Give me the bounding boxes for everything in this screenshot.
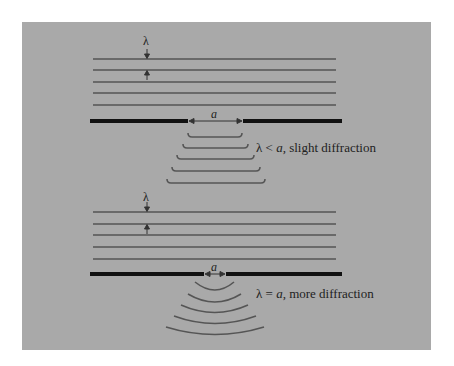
incident-wavefronts-top: [93, 59, 336, 105]
caption-top-prefix: λ <: [256, 140, 276, 155]
caption-bottom-prefix: λ =: [256, 286, 276, 301]
wavelength-label-bottom: λ: [143, 191, 149, 203]
caption-top-suffix: , slight diffraction: [283, 140, 376, 155]
wavelength-arrows-bottom: [145, 202, 150, 234]
wavelength-arrows-top: [145, 49, 150, 80]
aperture-label-bottom: a: [211, 261, 217, 273]
diffracted-wavefronts-top: [167, 133, 265, 183]
incident-wavefronts-bottom: [93, 212, 336, 259]
caption-bottom-suffix: , more diffraction: [283, 286, 374, 301]
diffracted-wavefronts-bottom: [166, 282, 264, 335]
caption-bottom: λ = a, more diffraction: [256, 287, 374, 300]
caption-top: λ < a, slight diffraction: [256, 141, 376, 154]
wavelength-label-top: λ: [143, 35, 149, 47]
diffraction-diagram: [0, 0, 454, 366]
aperture-label-top: a: [211, 108, 217, 120]
